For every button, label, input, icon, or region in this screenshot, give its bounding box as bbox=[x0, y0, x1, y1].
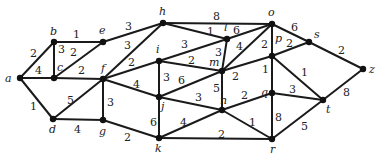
edge-weight-i-l: 3 bbox=[181, 38, 188, 51]
node-label-r: r bbox=[270, 143, 276, 156]
edge-weight-o-s: 6 bbox=[291, 21, 298, 34]
node-o bbox=[269, 21, 275, 27]
node-l bbox=[224, 36, 230, 42]
edge-weight-b-c: 3 bbox=[58, 43, 65, 56]
edge-weight-d-g: 4 bbox=[74, 123, 81, 136]
edge-j-n bbox=[159, 97, 222, 110]
edge-n-r bbox=[222, 110, 272, 139]
node-label-c: c bbox=[57, 61, 63, 74]
edge-k-r bbox=[159, 138, 272, 139]
node-label-t: t bbox=[326, 103, 331, 116]
node-f bbox=[100, 76, 106, 82]
edge-weight-p-s: 2 bbox=[286, 37, 293, 50]
edge-weight-n-r: 1 bbox=[249, 116, 256, 129]
node-s bbox=[306, 39, 312, 45]
edge-weight-p-q: 1 bbox=[262, 63, 269, 76]
node-label-q: q bbox=[261, 86, 268, 99]
edge-weight-o-p: 2 bbox=[261, 38, 268, 51]
edge-weight-q-r: 8 bbox=[275, 111, 282, 124]
graph-diagram: 2413122543323428132363642364252126211385… bbox=[0, 0, 385, 165]
edge-weight-k-n: 4 bbox=[180, 116, 187, 129]
node-m bbox=[219, 68, 225, 74]
node-p bbox=[269, 53, 275, 59]
edge-weight-l-o: 6 bbox=[233, 24, 240, 37]
edge-weight-m-o: 4 bbox=[236, 40, 243, 53]
node-label-d: d bbox=[49, 123, 56, 136]
edge-weight-g-k: 2 bbox=[124, 131, 131, 144]
edge-weight-f-g: 3 bbox=[107, 96, 114, 109]
node-label-k: k bbox=[155, 142, 162, 155]
node-label-i: i bbox=[156, 43, 160, 56]
edge-weight-r-t: 5 bbox=[301, 120, 308, 133]
node-label-l: l bbox=[224, 21, 228, 34]
node-label-z: z bbox=[368, 63, 375, 76]
edge-weight-i-j: 3 bbox=[163, 71, 170, 84]
edge-weight-j-k: 6 bbox=[150, 116, 157, 129]
node-q bbox=[269, 90, 275, 96]
edge-h-o bbox=[163, 23, 272, 24]
node-label-h: h bbox=[159, 5, 166, 18]
node-label-g: g bbox=[99, 125, 106, 138]
edge-weight-a-b: 2 bbox=[30, 47, 37, 60]
edge-weight-m-p: 2 bbox=[232, 70, 239, 83]
edge-weight-a-d: 1 bbox=[30, 100, 37, 113]
node-label-o: o bbox=[268, 6, 275, 19]
node-g bbox=[100, 117, 106, 123]
edge-weight-p-t: 1 bbox=[301, 66, 308, 79]
edge-weight-a-c: 4 bbox=[35, 64, 42, 77]
edge-s-z bbox=[309, 42, 363, 69]
node-a bbox=[17, 75, 23, 81]
node-b bbox=[51, 39, 57, 45]
node-z bbox=[360, 66, 366, 72]
edge-weight-j-m: 6 bbox=[178, 74, 185, 87]
node-label-n: n bbox=[220, 94, 227, 107]
node-label-p: p bbox=[275, 32, 282, 45]
node-e bbox=[100, 39, 106, 45]
edge-weight-f-h: 3 bbox=[124, 39, 131, 52]
edge-weight-j-n: 3 bbox=[195, 91, 202, 104]
edge-f-h bbox=[103, 23, 163, 79]
node-label-m: m bbox=[209, 56, 219, 69]
node-d bbox=[50, 116, 56, 122]
edge-weight-q-t: 3 bbox=[289, 83, 296, 96]
node-label-s: s bbox=[314, 28, 320, 41]
edge-weight-b-e: 1 bbox=[73, 28, 80, 41]
node-labels-layer: abcdefghijklmnopqrstz bbox=[5, 5, 375, 156]
node-c bbox=[51, 75, 57, 81]
edge-weight-f-i: 2 bbox=[128, 56, 135, 69]
edge-h-l bbox=[163, 23, 227, 39]
node-label-b: b bbox=[50, 25, 57, 38]
edge-d-g bbox=[53, 119, 103, 120]
node-k bbox=[156, 135, 162, 141]
edge-weight-f-j: 4 bbox=[133, 78, 140, 91]
edge-weight-c-f: 2 bbox=[78, 64, 85, 77]
node-h bbox=[160, 20, 166, 26]
edge-weight-h-l: 1 bbox=[207, 25, 214, 38]
edge-weight-k-r: 2 bbox=[218, 128, 225, 141]
node-n bbox=[219, 107, 225, 113]
edge-weight-s-z: 2 bbox=[338, 44, 345, 57]
edge-weight-e-h: 3 bbox=[125, 20, 132, 33]
edge-d-f bbox=[53, 79, 103, 119]
edge-f-j bbox=[103, 79, 159, 97]
edge-weight-n-q: 2 bbox=[241, 89, 248, 102]
edge-c-f bbox=[54, 78, 103, 79]
node-label-a: a bbox=[5, 72, 12, 85]
edge-weight-i-m: 2 bbox=[188, 54, 195, 67]
edge-weight-h-o: 8 bbox=[213, 10, 220, 23]
node-i bbox=[156, 58, 162, 64]
edge-k-n bbox=[159, 110, 222, 138]
edge-weight-c-e: 2 bbox=[70, 46, 77, 59]
node-label-e: e bbox=[99, 24, 106, 37]
edge-weight-d-f: 5 bbox=[67, 94, 74, 107]
edge-weight-m-n: 5 bbox=[213, 82, 220, 95]
edge-weight-t-z: 8 bbox=[343, 86, 350, 99]
node-label-f: f bbox=[100, 62, 107, 75]
node-r bbox=[269, 136, 275, 142]
